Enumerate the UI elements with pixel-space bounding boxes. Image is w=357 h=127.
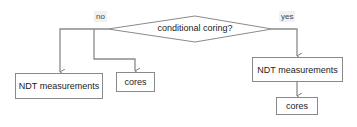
yes-branch-label: yes [279, 11, 295, 22]
no-branch-label: no [94, 11, 107, 22]
no-cores-node: cores [116, 72, 155, 92]
no-ndt-measurements-node: NDT measurements [15, 73, 103, 99]
decision-label: conditional coring? [145, 23, 245, 33]
yes-ndt-measurements-node: NDT measurements [252, 57, 343, 82]
yes-cores-node: cores [276, 97, 318, 115]
